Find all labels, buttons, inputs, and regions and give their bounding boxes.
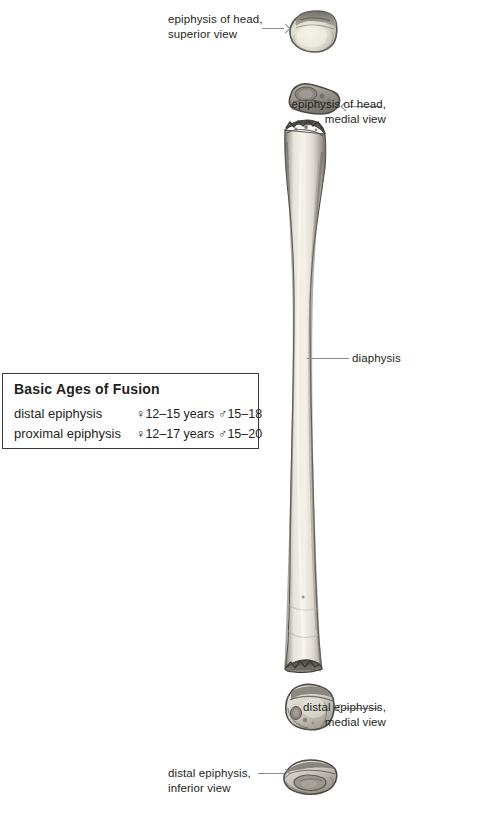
- fusion-row-female-proximal: ♀12–17 years: [136, 425, 218, 444]
- fusion-box-title: Basic Ages of Fusion: [14, 381, 160, 397]
- bone-distal-epiphysis-inferior: [281, 757, 339, 799]
- fusion-row-label-proximal: proximal epiphysis: [14, 424, 136, 443]
- table-row: distal epiphysis ♀12–15 years ♂15–18: [14, 404, 250, 424]
- label-diaphysis: diaphysis: [352, 351, 432, 366]
- label-epiphysis-head-medial: epiphysis of head, medial view: [270, 97, 386, 126]
- fusion-row-female-distal: ♀12–15 years: [136, 405, 218, 424]
- fusion-box-rows: distal epiphysis ♀12–15 years ♂15–18 pro…: [14, 404, 250, 444]
- label-epiphysis-head-superior: epiphysis of head, superior view: [168, 12, 263, 41]
- bone-head-epiphysis-superior: [288, 8, 340, 54]
- table-row: proximal epiphysis ♀12–17 years ♂15–20: [14, 424, 250, 444]
- fusion-ages-box: Basic Ages of Fusion distal epiphysis ♀1…: [2, 373, 259, 449]
- fusion-row-male-proximal: ♂15–20: [218, 425, 262, 444]
- fusion-row-male-distal: ♂15–18: [218, 405, 262, 424]
- leader-line-diaphysis: [307, 358, 349, 359]
- label-distal-epiphysis-medial: distal epiphysis, medial view: [270, 700, 386, 729]
- fusion-row-label-distal: distal epiphysis: [14, 404, 136, 423]
- bone-diaphysis-shaft: [276, 118, 334, 674]
- label-distal-epiphysis-inferior: distal epiphysis, inferior view: [168, 766, 260, 795]
- figure-canvas: epiphysis of head, superior view epiphys…: [0, 0, 481, 820]
